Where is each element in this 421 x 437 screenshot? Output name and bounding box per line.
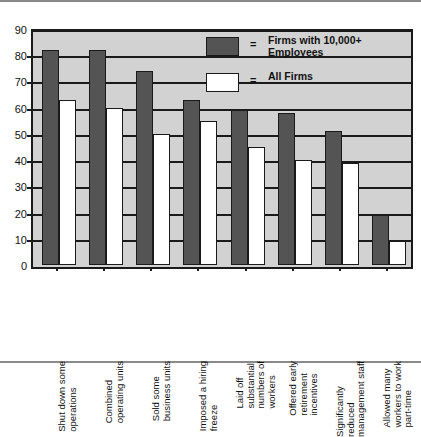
x-axis-labels: Shut down someoperationsCombinedoperatin… xyxy=(31,271,413,363)
x-axis-label-line: Significantly xyxy=(335,361,346,437)
legend-label-line1: Firms with 10,000+ xyxy=(268,34,362,46)
bar xyxy=(325,131,342,265)
legend-equals-sign-1: = xyxy=(250,38,256,50)
y-tick-label-90: 90 xyxy=(0,25,27,36)
gridline-90 xyxy=(33,30,411,32)
bar xyxy=(200,121,217,265)
x-tick-mark xyxy=(245,267,247,271)
x-tick-mark xyxy=(339,267,341,271)
x-axis-label-line: management staff xyxy=(356,361,367,437)
bar xyxy=(372,215,389,265)
y-tick-label-0: 0 xyxy=(0,261,27,272)
x-tick-mark xyxy=(292,267,294,271)
y-tick-label-80: 80 xyxy=(0,51,27,62)
x-axis-label-line: Combined xyxy=(104,361,115,423)
legend-label-all-firms: All Firms xyxy=(268,71,403,83)
x-axis-label-line: Shut down some xyxy=(57,361,68,432)
legend-label-line2: Employees xyxy=(268,46,323,58)
legend-swatch-light xyxy=(206,73,239,92)
x-axis-label-line: incentives xyxy=(309,361,320,416)
x-tick-mark xyxy=(386,267,388,271)
bar xyxy=(89,50,106,265)
legend-entry-firms-10000: = Firms with 10,000+ Employees xyxy=(206,35,406,71)
plot-area: = Firms with 10,000+ Employees = All Fir… xyxy=(31,29,413,269)
x-tick-mark xyxy=(150,267,152,271)
y-tick-label-40: 40 xyxy=(0,156,27,167)
x-axis-label-line: business units xyxy=(162,361,173,421)
y-tick-label-70: 70 xyxy=(0,77,27,88)
y-tick-label-10: 10 xyxy=(0,235,27,246)
legend-label-line1: All Firms xyxy=(268,70,313,82)
x-axis-label-line: operating units xyxy=(114,361,125,423)
legend-equals-sign-2: = xyxy=(250,74,256,86)
y-tick-label-50: 50 xyxy=(0,130,27,141)
bar-group xyxy=(130,33,177,265)
legend: = Firms with 10,000+ Employees = All Fir… xyxy=(206,35,406,107)
y-tick-label-60: 60 xyxy=(0,104,27,115)
bar xyxy=(231,110,248,265)
x-tick-mark xyxy=(197,267,199,271)
x-axis-label: Imposed a hiringfreeze xyxy=(198,361,219,431)
y-tick-label-30: 30 xyxy=(0,182,27,193)
x-axis-label-line: Offered early xyxy=(288,361,299,416)
x-axis-label: Combinedoperating units xyxy=(104,361,125,423)
x-tick-mark xyxy=(56,267,58,271)
legend-swatch-dark xyxy=(206,37,239,56)
bar xyxy=(153,134,170,265)
bar xyxy=(278,113,295,265)
bar xyxy=(342,163,359,265)
x-axis-label-line: freeze xyxy=(209,361,220,431)
bar-group xyxy=(82,33,129,265)
bar xyxy=(42,50,59,265)
x-axis-label: Offered earlyretirementincentives xyxy=(288,361,320,416)
x-axis-label: Laid offsubstantialnumbers ofworkers xyxy=(235,361,277,409)
bar xyxy=(183,100,200,265)
x-axis-label: Shut down someoperations xyxy=(57,361,78,432)
bar xyxy=(295,160,312,265)
bar-group xyxy=(35,33,82,265)
x-axis-label: Sold somebusiness units xyxy=(151,361,172,421)
bar xyxy=(248,147,265,265)
legend-label-firms-10000: Firms with 10,000+ Employees xyxy=(268,35,403,58)
x-axis-label: Allowed manyworkers to workpart-time xyxy=(382,361,414,428)
x-tick-mark xyxy=(103,267,105,271)
x-axis-label-line: workers xyxy=(267,361,278,409)
y-tick-label-20: 20 xyxy=(0,209,27,220)
x-axis-label: Significantlyreducedmanagement staff xyxy=(335,361,367,437)
legend-entry-all-firms: = All Firms xyxy=(206,71,406,107)
x-axis-label-line: part-time xyxy=(403,361,414,428)
bar xyxy=(136,71,153,265)
bar xyxy=(106,108,123,265)
bar xyxy=(389,241,406,265)
bar xyxy=(59,100,76,265)
x-axis-label-line: operations xyxy=(67,361,78,432)
